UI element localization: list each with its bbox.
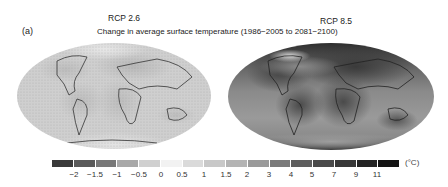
colorbar-segment <box>96 160 118 167</box>
colorbar-tick: 4 <box>289 170 293 179</box>
colorbar-tick: 9 <box>354 170 358 179</box>
scenario-label-rcp85: RCP 8.5 <box>320 16 352 26</box>
colorbar-tick: 0 <box>159 170 163 179</box>
colorbar-segment <box>335 160 357 167</box>
colorbar-segment <box>183 160 205 167</box>
colorbar-tick: 3 <box>267 170 271 179</box>
map-rcp85: 39 <box>228 43 434 150</box>
colorbar <box>52 160 399 167</box>
colorbar-segment <box>74 160 96 167</box>
model-count-rcp26: 32 <box>203 49 209 55</box>
figure-title: Change in average surface temperature (1… <box>97 27 338 36</box>
colorbar-segment <box>161 160 183 167</box>
colorbar-segment <box>226 160 248 167</box>
colorbar-tick: −2 <box>69 170 78 179</box>
colorbar-tick: −0.5 <box>131 170 147 179</box>
colorbar-segment <box>52 160 74 167</box>
colorbar-segment <box>270 160 292 167</box>
colorbar-tick: 1 <box>202 170 206 179</box>
scenario-label-rcp26: RCP 2.6 <box>108 13 140 23</box>
colorbar-segment <box>139 160 161 167</box>
colorbar-unit: (°C) <box>405 158 419 167</box>
colorbar-segment <box>357 160 379 167</box>
colorbar-tick: −1 <box>112 170 121 179</box>
colorbar-tick: 2 <box>245 170 249 179</box>
colorbar-tick: 0.5 <box>176 170 187 179</box>
colorbar-segment <box>248 160 270 167</box>
map-rcp26: 32 <box>17 43 211 149</box>
colorbar-tick: 7 <box>332 170 336 179</box>
colorbar-segment <box>313 160 335 167</box>
colorbar-tick: 5 <box>310 170 314 179</box>
panel-label: (a) <box>22 26 33 36</box>
colorbar-segment <box>378 160 399 167</box>
colorbar-segment <box>117 160 139 167</box>
colorbar-segment <box>204 160 226 167</box>
colorbar-segment <box>291 160 313 167</box>
colorbar-tick: −1.5 <box>87 170 103 179</box>
colorbar-tick: 11 <box>373 170 381 179</box>
model-count-rcp85: 39 <box>424 49 430 55</box>
colorbar-tick: 1.5 <box>220 170 231 179</box>
